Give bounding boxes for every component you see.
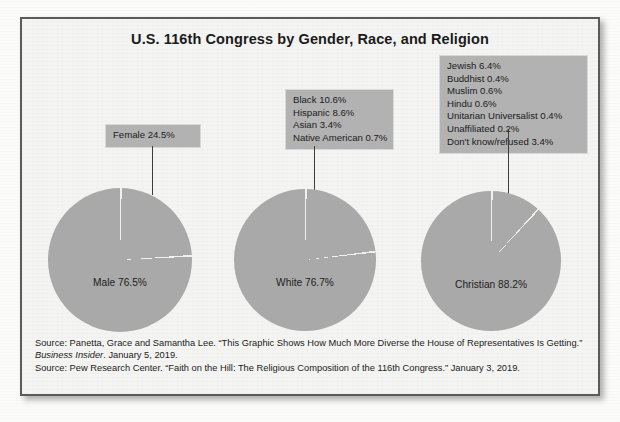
callout-line: Asian 3.4% [293, 119, 386, 132]
pie-slices-race [234, 189, 376, 331]
callout-line: Native American 0.7% [293, 132, 386, 145]
callout-box-race: Black 10.6% Hispanic 8.6% Asian 3.4% Nat… [285, 89, 394, 150]
pie-slices-gender [48, 188, 192, 332]
callout-box-religion: Jewish 6.4% Buddhist 0.4% Muslim 0.6% Hi… [439, 55, 588, 154]
callout-line: Female 24.5% [113, 129, 193, 142]
pie-chart-gender: Male 76.5% [48, 188, 192, 332]
pie-chart-religion: Christian 88.2% [421, 191, 561, 331]
pie-label-gender: Male 76.5% [48, 277, 192, 288]
callout-line: Muslim 0.6% [447, 85, 580, 98]
callout-box-gender: Female 24.5% [105, 124, 201, 148]
pie-slices-religion [421, 191, 561, 331]
source-line-3: Source: Pew Research Center. “Faith on t… [35, 362, 587, 374]
callout-line: Don't know/refused 3.4% [447, 136, 580, 149]
figure-frame: U.S. 116th Congress by Gender, Race, and… [20, 17, 600, 396]
pie-label-religion: Christian 88.2% [421, 279, 561, 290]
source-date: . January 5, 2019. [103, 350, 177, 360]
scanned-page-background: U.S. 116th Congress by Gender, Race, and… [0, 0, 620, 422]
leader-line-religion [508, 129, 509, 196]
callout-line: Hispanic 8.6% [293, 107, 386, 120]
callout-line: Black 10.6% [293, 94, 386, 107]
pie-label-race: White 76.7% [234, 277, 376, 288]
source-notes: Source: Panetta, Grace and Samantha Lee.… [35, 337, 587, 374]
source-line-2: Business Insider. January 5, 2019. [35, 349, 587, 361]
source-line-1: Source: Panetta, Grace and Samantha Lee.… [35, 337, 587, 349]
callout-line: Unaffiliated 0.2% [447, 123, 580, 136]
callout-line: Unitarian Universalist 0.4% [447, 110, 580, 123]
page-title: U.S. 116th Congress by Gender, Race, and… [22, 31, 598, 47]
source-publication: Business Insider [35, 350, 103, 360]
callout-line: Buddhist 0.4% [447, 73, 580, 86]
callout-line: Jewish 6.4% [447, 60, 580, 73]
callout-line: Hindu 0.6% [447, 98, 580, 111]
pie-chart-race: White 76.7% [234, 189, 376, 331]
